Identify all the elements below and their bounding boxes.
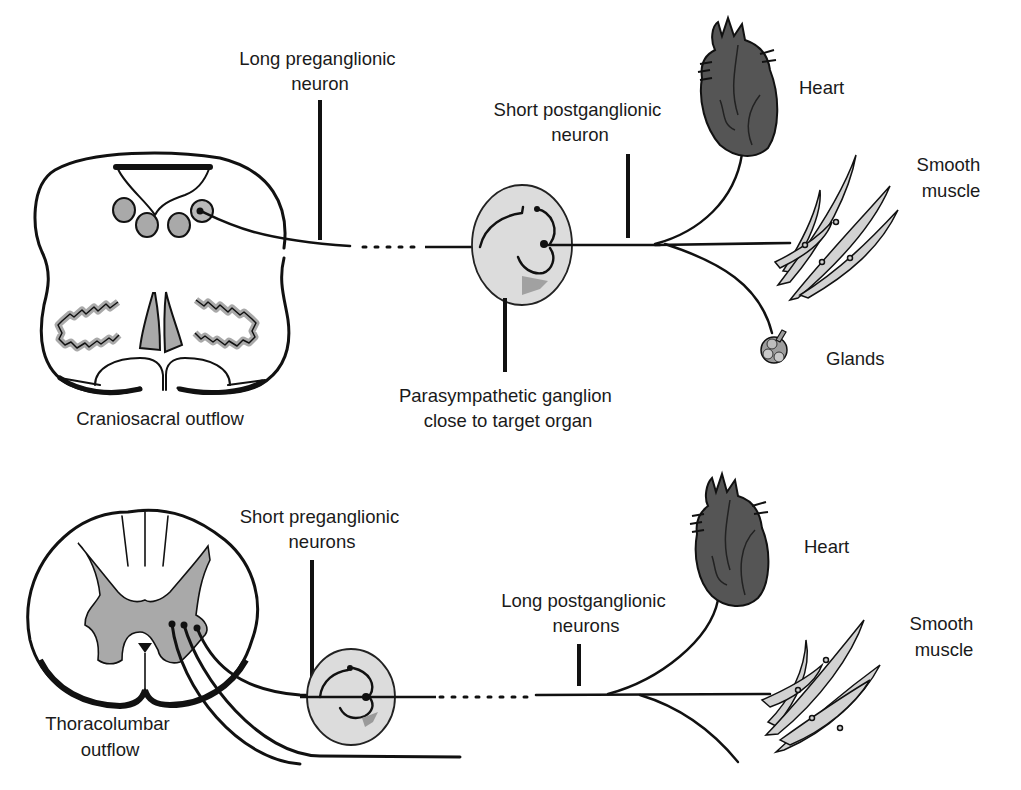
parasympathetic-ganglion (472, 185, 572, 372)
label-smooth-muscle-bottom: Smooth muscle (910, 613, 979, 660)
sympathetic-panel: Short preganglionic neurons Long postgan… (28, 474, 979, 764)
heart-icon-bottom (690, 474, 768, 606)
label-short-preganglionic: Short preganglionic neurons (240, 506, 405, 552)
label-long-preganglionic: Long preganglionic neuron (239, 48, 401, 94)
label-parasympathetic-ganglion: Parasympathetic ganglion close to target… (399, 385, 617, 431)
craniosacral-cord-section (35, 153, 289, 394)
label-long-postganglionic: Long postganglionic neurons (501, 590, 671, 636)
long-preganglionic-axon (203, 212, 350, 246)
label-heart-top: Heart (799, 77, 844, 98)
label-short-postganglionic: Short postganglionic neuron (494, 99, 667, 145)
label-thoracolumbar-outflow: Thoracolumbar outflow (45, 713, 175, 760)
label-glands: Glands (826, 348, 885, 369)
heart-icon (698, 18, 777, 156)
label-heart-bottom: Heart (804, 536, 849, 557)
glands-icon (761, 330, 787, 363)
sympathetic-ganglion (300, 649, 436, 745)
label-smooth-muscle-top: Smooth muscle (917, 154, 986, 201)
smooth-muscle-icon-bottom (762, 620, 880, 752)
autonomic-nervous-system-diagram: Long preganglionic neuron Short postgang… (0, 0, 1021, 790)
smooth-muscle-icon (775, 155, 898, 300)
thoracolumbar-cord-section (28, 510, 258, 706)
parasympathetic-panel: Long preganglionic neuron Short postgang… (35, 18, 985, 431)
label-craniosacral-outflow: Craniosacral outflow (76, 408, 244, 429)
